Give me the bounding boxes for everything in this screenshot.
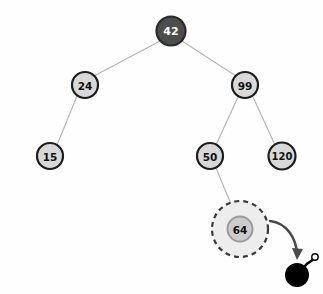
bomb-icon [285, 263, 309, 287]
tree-node-15[interactable]: 15 [37, 143, 63, 169]
node-circle-15 [37, 143, 63, 169]
node-circle-24 [72, 72, 98, 98]
node-circle-99 [232, 72, 258, 98]
bomb-spark-icon [312, 254, 318, 260]
tree-diagram-canvas: 422499155012064 [0, 0, 323, 294]
bst-deletion-figure: 422499155012064 [0, 0, 323, 294]
tree-node-64[interactable]: 64 [228, 217, 253, 242]
node-circle-42 [157, 17, 186, 46]
node-circle-50 [197, 143, 223, 169]
tree-node-24[interactable]: 24 [72, 72, 98, 98]
tree-node-50[interactable]: 50 [197, 143, 223, 169]
tree-node-99[interactable]: 99 [232, 72, 258, 98]
tree-node-120[interactable]: 120 [269, 143, 296, 170]
node-circle-120 [269, 143, 296, 170]
tree-node-42[interactable]: 42 [157, 17, 186, 46]
node-circle-64 [228, 217, 253, 242]
